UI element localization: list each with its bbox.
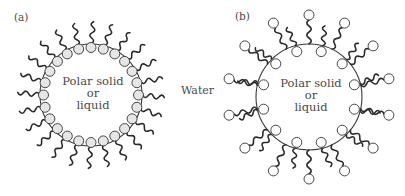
polar-head-icon <box>110 49 120 59</box>
hydrocarbon-tail <box>141 108 162 116</box>
hydrocarbon-tail <box>41 41 55 58</box>
polar-head-icon <box>340 166 350 176</box>
polar-head-icon <box>134 90 144 100</box>
polar-head-icon <box>45 114 55 124</box>
polar-head-icon <box>316 137 326 147</box>
polar-head-icon <box>384 74 394 84</box>
polar-head-icon <box>39 90 49 100</box>
panel-a-monolayer: (a) Polar solid or liquid <box>14 11 164 168</box>
polar-head-icon <box>271 125 281 135</box>
panel-b-bilayer: (b) Polar solid or liquid <box>224 10 394 184</box>
polar-head-icon <box>110 131 120 141</box>
panel-a-label: (a) <box>14 11 28 23</box>
hydrocarbon-tail <box>332 28 342 50</box>
hydrocarbon-tail <box>292 148 297 168</box>
polar-head-icon <box>292 47 302 57</box>
hydrocarbon-tail <box>52 140 65 158</box>
panel-a-core-text-line3: liquid <box>76 98 110 112</box>
hydrocarbon-tail <box>29 56 47 69</box>
hydrocarbon-tail <box>70 145 78 166</box>
hydrocarbon-tail <box>360 74 378 84</box>
polar-head-icon <box>368 41 378 51</box>
hydrocarbon-tail <box>18 91 40 96</box>
water-label: Water <box>181 84 215 97</box>
polar-head-icon <box>259 80 269 90</box>
hydrocarbon-tail <box>103 145 110 167</box>
polar-head-icon <box>132 78 142 88</box>
panel-b-label: (b) <box>235 10 250 22</box>
hydrocarbon-tail <box>276 145 286 167</box>
polar-head-icon <box>340 18 350 28</box>
polar-head-icon <box>268 18 278 28</box>
polar-head-icon <box>259 104 269 114</box>
polar-head-icon <box>271 59 281 69</box>
polar-head-icon <box>74 136 84 146</box>
polar-head-icon <box>368 143 378 153</box>
polar-head-icon <box>52 56 62 66</box>
hydrocarbon-tail <box>141 77 163 84</box>
hydrocarbon-tail <box>56 30 67 50</box>
hydrocarbon-tail <box>275 28 287 50</box>
hydrocarbon-tail <box>331 145 343 167</box>
hydrocarbon-tail <box>117 33 130 51</box>
hydrocarbon-tail <box>21 74 42 82</box>
polar-head-icon <box>62 49 72 59</box>
hydrocarbon-tail <box>116 140 127 160</box>
polar-head-icon <box>86 138 96 148</box>
polar-head-icon <box>349 104 359 114</box>
polar-head-icon <box>52 124 62 134</box>
polar-head-icon <box>224 74 234 84</box>
polar-head-icon <box>74 44 84 54</box>
hydrocarbon-tail <box>20 107 42 114</box>
polar-head-icon <box>304 174 314 184</box>
polar-head-icon <box>349 80 359 90</box>
polar-head-icon <box>62 131 72 141</box>
polar-head-icon <box>86 43 96 53</box>
polar-head-icon <box>304 10 314 20</box>
polar-head-icon <box>40 102 50 112</box>
hydrocarbon-tail <box>73 24 80 46</box>
polar-head-icon <box>268 166 278 176</box>
polar-head-icon <box>316 47 326 57</box>
hydrocarbon-tail <box>322 148 332 166</box>
polar-head-icon <box>292 137 302 147</box>
hydrocarbon-tail <box>307 150 311 174</box>
polar-head-icon <box>98 44 108 54</box>
hydrocarbon-tail <box>136 60 156 71</box>
hydrocarbon-tail <box>136 121 154 134</box>
polar-head-icon <box>98 136 108 146</box>
hydrocarbon-tail <box>307 20 311 44</box>
hydrocarbon-tail <box>104 25 112 46</box>
polar-head-icon <box>45 66 55 76</box>
polar-head-icon <box>240 41 250 51</box>
hydrocarbon-tail <box>321 26 326 46</box>
polar-head-icon <box>240 143 250 153</box>
polar-head-icon <box>384 110 394 120</box>
hydrocarbon-tail <box>143 94 165 99</box>
hydrocarbon-tail <box>90 22 95 44</box>
hydrocarbon-tail <box>37 131 54 145</box>
hydrocarbon-tail <box>87 147 92 169</box>
hydrocarbon-tail <box>127 45 144 59</box>
hydrocarbon-tail <box>240 110 258 120</box>
panel-b-core-text-line3: liquid <box>294 100 328 114</box>
polar-head-icon <box>127 66 137 76</box>
polar-head-icon <box>127 114 137 124</box>
polar-head-icon <box>337 125 347 135</box>
hydrocarbon-tail <box>286 28 296 46</box>
polar-head-icon <box>224 110 234 120</box>
micelle-diagram: (a) Polar solid or liquid Water (b) Pola… <box>0 0 405 196</box>
polar-head-icon <box>120 124 130 134</box>
polar-head-icon <box>337 59 347 69</box>
polar-head-icon <box>132 102 142 112</box>
polar-head-icon <box>40 78 50 88</box>
hydrocarbon-tail <box>26 120 46 131</box>
polar-head-icon <box>120 56 130 66</box>
hydrocarbon-tail <box>127 131 141 148</box>
